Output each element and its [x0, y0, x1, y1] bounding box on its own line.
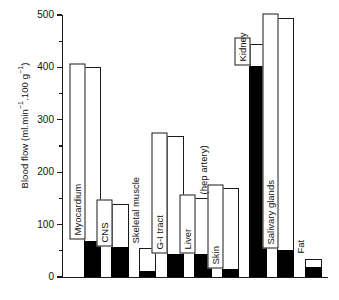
bar-label-myocardium: Myocardium	[69, 63, 85, 239]
y-minor-tick-450	[59, 41, 62, 42]
y-minor-tick-50	[59, 250, 62, 251]
y-tick-0	[57, 276, 62, 277]
y-axis-label-exponent-1: −1	[17, 101, 24, 109]
y-tick-100	[57, 224, 62, 225]
bar-kidney	[250, 44, 267, 277]
plot-area: 0100200300400500 MyocardiumCNSSkeletal m…	[62, 15, 324, 277]
y-axis-label-middle: .100 g	[19, 74, 30, 101]
y-axis-label-exponent-2: −1	[17, 66, 24, 74]
y-axis-label-suffix: )	[19, 62, 30, 65]
bar-fat	[305, 259, 322, 277]
annotation-hep-artery: (hep artery)	[197, 142, 211, 197]
bar-black-segment	[84, 241, 102, 277]
bar-liver	[194, 198, 211, 277]
bar-skin	[222, 188, 239, 277]
y-axis-line	[62, 15, 63, 277]
y-tick-label-500: 500	[37, 10, 54, 20]
y-tick-label-200: 200	[37, 167, 54, 177]
y-tick-400	[57, 67, 62, 68]
y-minor-tick-350	[59, 93, 62, 94]
bar-black-segment	[167, 254, 185, 277]
blood-flow-bar-chart: Blood flow (ml.min−1.100 g−1) 0100200300…	[0, 0, 339, 300]
y-axis-label: Blood flow (ml.min−1.100 g−1)	[19, 26, 30, 226]
bar-salivary-glands	[277, 18, 294, 277]
y-tick-label-300: 300	[37, 115, 54, 125]
y-tick-200	[57, 172, 62, 173]
bar-label-skeletal-muscle: Skeletal muscle	[130, 175, 140, 246]
bar-label-g-i-tract: G-I tract	[152, 132, 168, 253]
bar-label-kidney: Kidney	[235, 37, 251, 65]
bar-black-segment	[194, 254, 212, 277]
y-tick-label-0: 0	[48, 272, 54, 282]
bar-cns	[112, 204, 129, 277]
bar-black-segment	[277, 250, 295, 278]
y-axis-label-prefix: Blood flow (ml.min	[19, 109, 30, 188]
bar-skeletal-muscle	[139, 248, 156, 277]
bar-black-segment	[222, 269, 240, 277]
bar-black-segment	[139, 271, 157, 278]
bar-black-segment	[305, 267, 323, 278]
y-minor-tick-150	[59, 198, 62, 199]
bar-black-segment	[249, 66, 267, 277]
y-tick-500	[57, 14, 62, 15]
bar-label-fat: Fat	[296, 238, 306, 256]
y-tick-300	[57, 119, 62, 120]
y-tick-label-400: 400	[37, 62, 54, 72]
y-minor-tick-250	[59, 145, 62, 146]
bar-g-i-tract	[167, 136, 184, 277]
bar-black-segment	[111, 247, 129, 277]
y-tick-label-100: 100	[37, 220, 54, 230]
bar-myocardium	[84, 67, 101, 277]
